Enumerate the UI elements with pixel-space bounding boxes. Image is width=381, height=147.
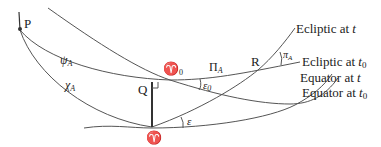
label-vernal-t0: ♈0 <box>163 61 183 77</box>
label-vernal-t: ♈ <box>146 130 162 145</box>
label-chi-a: χA <box>64 78 75 93</box>
label-ecliptic-t0: Ecliptic at t0 <box>302 54 367 70</box>
label-q: Q <box>138 82 148 97</box>
label-p: P <box>24 16 31 31</box>
equator-t0-curve <box>48 8 338 104</box>
label-equator-t0: Equator at t0 <box>302 85 368 101</box>
label-psi-a: ψA <box>60 53 72 68</box>
label-ecliptic-t: Ecliptic at t <box>296 21 356 36</box>
pole-point <box>18 27 22 31</box>
label-Pi-a: ΠA <box>209 60 223 75</box>
eps-angle-arc <box>181 117 183 128</box>
label-equator-t: Equator at t <box>300 70 361 85</box>
pi-angle-arc <box>280 52 282 65</box>
label-r: R <box>251 54 260 69</box>
precession-diagram: P ψA χA Q ♈0 ♈ ΠA ε0 ε R πA Ecliptic at … <box>0 0 381 147</box>
label-eps: ε <box>187 115 192 127</box>
label-pi-a: πA <box>283 49 293 62</box>
label-eps0: ε0 <box>203 79 211 93</box>
ecliptic-t-curve <box>20 28 295 127</box>
